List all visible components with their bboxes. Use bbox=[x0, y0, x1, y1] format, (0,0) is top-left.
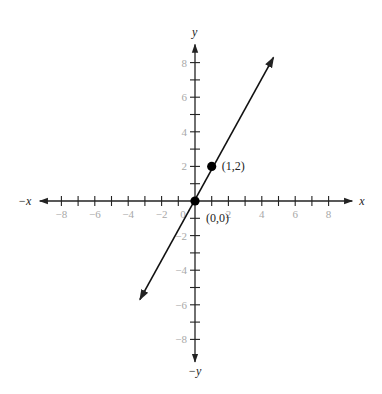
data-point-label: (0,0) bbox=[206, 211, 229, 225]
y-tick-label: 6 bbox=[182, 91, 188, 103]
data-point bbox=[190, 196, 199, 205]
x-tick-label: −8 bbox=[56, 208, 68, 220]
x-tick-label: −2 bbox=[156, 208, 168, 220]
x-axis-label: x bbox=[358, 194, 365, 208]
y-tick-label: −4 bbox=[175, 264, 187, 276]
y-tick-label: 4 bbox=[182, 126, 188, 138]
data-point-label: (1,2) bbox=[222, 159, 245, 173]
y-negative-axis-label: −y bbox=[188, 364, 202, 378]
line-y-equals-2x bbox=[140, 57, 274, 299]
coordinate-plane-chart: −8−6−4−202468−8−6−4−22468 x −x y −y (0,0… bbox=[0, 0, 382, 394]
x-tick-label: −6 bbox=[89, 208, 101, 220]
x-tick-label: 8 bbox=[326, 208, 332, 220]
x-negative-axis-label: −x bbox=[18, 194, 32, 208]
y-tick-label: −6 bbox=[175, 299, 187, 311]
y-tick-label: −8 bbox=[175, 333, 187, 345]
y-tick-label: 2 bbox=[182, 160, 188, 172]
x-tick-label: 4 bbox=[259, 208, 265, 220]
y-tick-label: 8 bbox=[182, 57, 188, 69]
y-axis-label: y bbox=[191, 25, 198, 39]
x-tick-label: 6 bbox=[292, 208, 298, 220]
data-series bbox=[140, 57, 274, 299]
x-tick-label: −4 bbox=[122, 208, 134, 220]
data-point bbox=[207, 162, 216, 171]
